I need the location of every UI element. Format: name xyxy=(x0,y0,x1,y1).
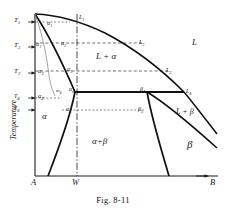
point-label-alpha1-prime: α1' xyxy=(36,41,42,47)
composition-marker-label: W xyxy=(72,178,79,187)
figure-caption-text: Fig. 8-11 xyxy=(96,195,130,205)
region-label-liquid: L xyxy=(192,38,197,47)
tick-label-T6: T6 xyxy=(14,105,20,112)
tick-label-T3-subscript: 3 xyxy=(18,71,20,76)
point-label-alpha1-subscript: 1 xyxy=(50,23,52,28)
point-label-alpha3-subscript: 3 xyxy=(70,69,72,74)
point-label-L3: L3 xyxy=(166,67,171,73)
solidus-alpha-curve xyxy=(35,14,75,92)
point-label-alpha3: α3 xyxy=(67,66,72,72)
tick-label-T3: T3 xyxy=(14,68,20,75)
x-axis-arrow-head xyxy=(205,174,210,178)
region-label-alpha-plus-beta: α+β xyxy=(92,137,107,146)
point-label-L2: L2 xyxy=(139,39,144,45)
x-axis-end-label: B xyxy=(210,178,215,187)
point-label-m4: m4 xyxy=(56,88,61,94)
point-label-alpha4-prime-subscript: 4' xyxy=(41,96,44,101)
point-label-alpha1-prime-subscript: 1' xyxy=(39,44,42,49)
tick-label-T1-subscript: 1 xyxy=(18,20,20,25)
point-label-alpha2-subscript: 2 xyxy=(64,43,66,48)
point-label-L4: L4 xyxy=(186,88,191,94)
point-label-alpha5-subscript: 5 xyxy=(69,109,71,114)
tick-label-T6-subscript: 6 xyxy=(17,108,19,113)
region-label-beta: β xyxy=(187,139,192,150)
tick-label-T2-subscript: 2 xyxy=(18,45,20,50)
tick-label-T4: T4 xyxy=(14,93,20,100)
point-label-alpha4: α4 xyxy=(69,86,74,92)
point-label-beta5: β5 xyxy=(138,106,143,112)
non-equilibrium-solidus-curve xyxy=(35,14,55,96)
point-label-beta5-subscript: 5 xyxy=(141,109,143,114)
tick-label-T2: T2 xyxy=(14,42,20,49)
tick-label-T4-subscript: 4 xyxy=(17,96,19,101)
tick-label-T1: T1 xyxy=(14,17,20,24)
point-label-alpha4-prime: α4' xyxy=(38,93,44,99)
point-label-beta4-subscript: 4 xyxy=(143,89,145,94)
point-label-alpha4-subscript: 4 xyxy=(72,89,74,94)
region-label-liquid-plus-beta: L + β xyxy=(176,108,194,116)
point-label-L1: L1 xyxy=(79,14,84,20)
point-label-alpha1: α1 xyxy=(47,20,52,26)
region-label-liquid-plus-alpha: L + α xyxy=(96,52,116,61)
point-label-beta4: β4 xyxy=(140,86,145,92)
x-axis-origin-label: A xyxy=(31,178,36,187)
point-label-alpha2: α2 xyxy=(61,40,66,46)
point-label-alpha3-prime-subscript: 3' xyxy=(41,71,44,76)
alpha-solvus-curve xyxy=(48,92,75,176)
region-label-alpha: α xyxy=(42,112,47,121)
point-label-alpha3-prime: α3' xyxy=(38,68,44,74)
figure-caption: Fig. 8-11 xyxy=(0,195,226,205)
point-label-alpha5: α5 xyxy=(66,106,71,112)
phase-diagram-figure: Temperature T1 T2 T3 T4 T6 L L + α L + β… xyxy=(0,0,226,215)
